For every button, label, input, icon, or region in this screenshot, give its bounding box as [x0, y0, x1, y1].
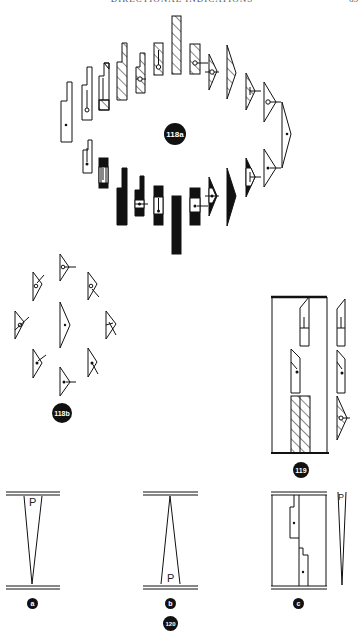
figure-label-120b: b: [165, 598, 176, 609]
figure-label-120a: a: [27, 598, 38, 609]
figure-label-118b: 118b: [52, 403, 72, 423]
figure-label-118a: 118a: [164, 123, 186, 145]
letter-p-120a: P: [29, 496, 36, 508]
figure-label-120: 120: [163, 616, 178, 631]
fig120: [6, 492, 346, 589]
figure-label-120c: c: [293, 598, 304, 609]
letter-p-120b: P: [167, 572, 174, 584]
fig119: [271, 297, 350, 453]
figure-label-119: 119: [293, 462, 309, 478]
letter-p-120c: P: [338, 492, 344, 502]
figure-canvas: [0, 0, 364, 638]
fig118b: [15, 254, 116, 396]
